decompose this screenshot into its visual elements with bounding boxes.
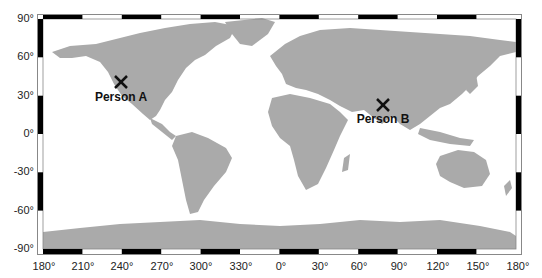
land-masses — [43, 18, 516, 249]
lon-label: 0° — [276, 260, 287, 272]
world-map — [0, 0, 542, 278]
lon-label: 90° — [391, 260, 408, 272]
lat-label: 0° — [2, 127, 34, 139]
lon-label: 180° — [33, 260, 56, 272]
lat-label: 90° — [2, 12, 34, 24]
lon-label: 210° — [72, 260, 95, 272]
lon-label: 180° — [507, 260, 530, 272]
person-b-label: Person B — [357, 112, 410, 126]
lon-label: 120° — [427, 260, 450, 272]
lon-label: 240° — [111, 260, 134, 272]
lon-label: 330° — [230, 260, 253, 272]
lon-label: 150° — [467, 260, 490, 272]
lat-label: 30° — [2, 89, 34, 101]
lat-label: 60° — [2, 50, 34, 62]
lon-label: 300° — [190, 260, 213, 272]
lon-label: 30° — [312, 260, 329, 272]
lon-label: 270° — [151, 260, 174, 272]
lat-label: -90° — [2, 242, 34, 254]
lat-label: -60° — [2, 204, 34, 216]
lon-label: 60° — [351, 260, 368, 272]
person-a-label: Person A — [95, 90, 147, 104]
lat-label: -30° — [2, 165, 34, 177]
